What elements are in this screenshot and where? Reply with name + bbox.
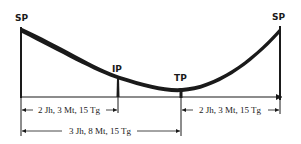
ip-label: IP [112,64,122,74]
dim-sp-tp-label: 3 Jh, 8 Mt, 15 Tg [69,126,132,136]
sp-right-label: SP [272,12,285,22]
tp-label: TP [174,73,187,83]
ip-marker [117,78,120,97]
cycle-curve [20,27,280,92]
sp-left-label: SP [15,13,28,23]
dim-sp-ip-label: 2 Jh, 3 Mt, 15 Tg [38,105,101,115]
dim-tp-sp-label: 2 Jh, 3 Mt, 15 Tg [199,105,262,115]
cycle-diagram: 2 Jh, 3 Mt, 15 Tg 2 Jh, 3 Mt, 15 Tg 3 Jh… [0,0,301,144]
